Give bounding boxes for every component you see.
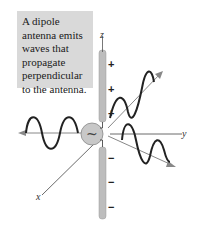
z-axis-label: z	[99, 29, 104, 40]
lower-antenna-rod	[99, 147, 106, 219]
lower-right-arrowhead-icon	[166, 161, 176, 167]
x-axis	[42, 142, 96, 195]
left-arrowhead-icon	[18, 130, 26, 136]
upper-right-wave	[110, 71, 154, 118]
lower-charge-2: −	[108, 176, 114, 188]
x-axis-label: x	[35, 191, 41, 202]
lower-charge-3: −	[108, 201, 114, 213]
upper-charge-2: +	[108, 83, 114, 95]
lower-charge-1: −	[108, 152, 114, 164]
dipole-diagram: z y x ~ + + + − − −	[0, 0, 200, 237]
y-axis-label: y	[181, 128, 187, 139]
lower-right-wave	[122, 124, 170, 163]
upper-charge-1: +	[108, 58, 114, 70]
lower-right-propagation-line	[108, 136, 172, 165]
ac-source-symbol-icon: ~	[86, 126, 98, 142]
upper-antenna-rod	[99, 50, 106, 122]
upper-charge-3: +	[108, 107, 114, 119]
